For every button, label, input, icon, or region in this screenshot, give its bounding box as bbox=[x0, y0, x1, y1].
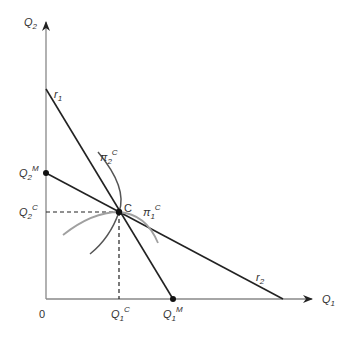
q1m-label: Q1M bbox=[163, 305, 183, 323]
q2m-point bbox=[43, 170, 49, 176]
x-axis-label: Q1 bbox=[322, 293, 335, 308]
equilibrium-label-c: C bbox=[124, 202, 132, 214]
pi2-label: π2C bbox=[100, 148, 118, 166]
q1m-point bbox=[170, 296, 176, 302]
q1c-label: Q1C bbox=[111, 305, 130, 323]
origin-label: 0 bbox=[39, 308, 45, 320]
cournot-diagram: Q2 Q1 0 r1 r2 π2C π1C C Q2M Q2C Q1C Q1M bbox=[0, 0, 349, 337]
equilibrium-point-c bbox=[116, 209, 122, 215]
q2c-label: Q2C bbox=[19, 203, 38, 221]
r2-label: r2 bbox=[256, 271, 265, 286]
q2m-label: Q2M bbox=[19, 164, 39, 182]
reaction-line-r1 bbox=[46, 89, 173, 299]
pi1-label: π1C bbox=[143, 203, 161, 221]
reaction-line-r2 bbox=[46, 173, 283, 299]
isoprofit-curve-pi2 bbox=[90, 152, 121, 254]
r1-label: r1 bbox=[54, 88, 62, 103]
y-axis-label: Q2 bbox=[24, 16, 38, 31]
